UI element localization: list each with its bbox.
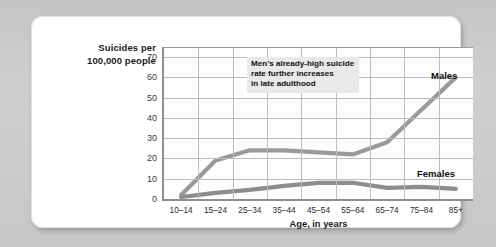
y-tick-label: 0: [131, 194, 157, 204]
x-axis-ticks: 10–1415–2425–3435–4445–5455–6465–7475–84…: [164, 205, 473, 219]
x-tick-label: 10–14: [170, 205, 193, 215]
x-tick-label: 55–64: [341, 205, 364, 215]
gridline-vertical: [198, 47, 199, 199]
gridline-vertical: [404, 47, 405, 199]
y-axis-line: [162, 47, 164, 200]
x-tick-label: 15–24: [204, 205, 227, 215]
x-axis-title: Age, in years: [164, 219, 473, 229]
y-tick-label: 20: [131, 153, 157, 163]
y-tick-label: 30: [131, 133, 157, 143]
annotation-callout: Men’s already-high suicide rate further …: [247, 57, 359, 93]
annotation-line-2: rate further increases: [251, 69, 354, 79]
y-tick-label: 50: [131, 93, 157, 103]
x-axis-line: [162, 199, 473, 201]
x-tick-label: 35–44: [273, 205, 296, 215]
y-tick-label: 60: [131, 72, 157, 82]
x-tick-label: 75–84: [410, 205, 433, 215]
y-tick-label: 70: [131, 52, 157, 62]
y-tick-label: 40: [131, 113, 157, 123]
annotation-line-3: in late adulthood: [251, 79, 354, 89]
x-tick-label: 25–34: [238, 205, 261, 215]
x-tick-label: 45–54: [307, 205, 330, 215]
y-axis-ticks: 010203040506070: [131, 47, 157, 199]
figure-root: Suicides per 100,000 people 010203040506…: [0, 0, 496, 247]
figure-card: Suicides per 100,000 people 010203040506…: [31, 16, 461, 228]
x-tick-label: 85+: [449, 205, 463, 215]
gridline-vertical: [370, 47, 371, 199]
gridline-vertical: [233, 47, 234, 199]
annotation-line-1: Men’s already-high suicide: [251, 59, 354, 69]
x-tick-label: 65–74: [376, 205, 399, 215]
series-label-males: Males: [431, 70, 457, 81]
series-label-females: Females: [417, 168, 455, 179]
y-tick-label: 10: [131, 174, 157, 184]
plot-top-border: [164, 47, 473, 48]
